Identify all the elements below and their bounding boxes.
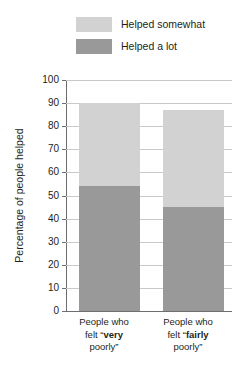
bar-chart: Helped somewhat Helped a lot Percentage … bbox=[0, 0, 236, 369]
gridline bbox=[66, 311, 232, 312]
y-axis-tick-mark bbox=[62, 172, 66, 173]
bar-segment bbox=[163, 207, 224, 311]
legend-swatch-helped-a-lot bbox=[76, 39, 112, 54]
y-axis-tick-mark bbox=[62, 126, 66, 127]
y-axis-tick-label: 90 bbox=[48, 98, 59, 108]
legend-label-helped-somewhat: Helped somewhat bbox=[121, 19, 205, 30]
legend-swatch-helped-somewhat bbox=[76, 17, 112, 32]
bar-stack bbox=[79, 80, 140, 311]
y-axis-title: Percentage of people helped bbox=[12, 80, 26, 311]
y-axis-tick-label: 40 bbox=[48, 214, 59, 224]
y-axis-tick-mark bbox=[62, 242, 66, 243]
y-axis-tick-label: 50 bbox=[48, 191, 59, 201]
y-axis-tick-mark bbox=[62, 80, 66, 81]
y-axis-tick-mark bbox=[62, 103, 66, 104]
y-axis-tick-label: 30 bbox=[48, 237, 59, 247]
x-axis-category-label: People whofelt “verypoorly” bbox=[62, 316, 146, 354]
legend-item-helped-somewhat: Helped somewhat bbox=[76, 16, 236, 33]
y-axis-tick-mark bbox=[62, 265, 66, 266]
y-axis-tick-label: 20 bbox=[48, 260, 59, 270]
legend-item-helped-a-lot: Helped a lot bbox=[76, 38, 236, 55]
y-axis-tick-mark bbox=[62, 219, 66, 220]
y-axis-tick-mark bbox=[62, 311, 66, 312]
y-axis-tick-label: 0 bbox=[53, 306, 59, 316]
bar-segment bbox=[79, 103, 140, 186]
y-axis-tick-mark bbox=[62, 149, 66, 150]
y-axis-tick-label: 100 bbox=[42, 75, 59, 85]
y-axis-tick-mark bbox=[62, 196, 66, 197]
x-axis-category-label: People whofelt “fairlypoorly” bbox=[146, 316, 230, 354]
y-axis-tick-mark bbox=[62, 288, 66, 289]
bar-segment bbox=[163, 110, 224, 207]
y-axis-tick-label: 10 bbox=[48, 283, 59, 293]
y-axis-tick-label: 80 bbox=[48, 121, 59, 131]
y-axis-tick-label: 70 bbox=[48, 144, 59, 154]
y-axis-tick-label: 60 bbox=[48, 167, 59, 177]
legend-label-helped-a-lot: Helped a lot bbox=[121, 41, 177, 52]
bar-stack bbox=[163, 80, 224, 311]
plot-area: 1009080706050403020100 bbox=[66, 80, 232, 311]
bar-segment bbox=[79, 186, 140, 311]
chart-legend: Helped somewhat Helped a lot bbox=[76, 16, 236, 60]
